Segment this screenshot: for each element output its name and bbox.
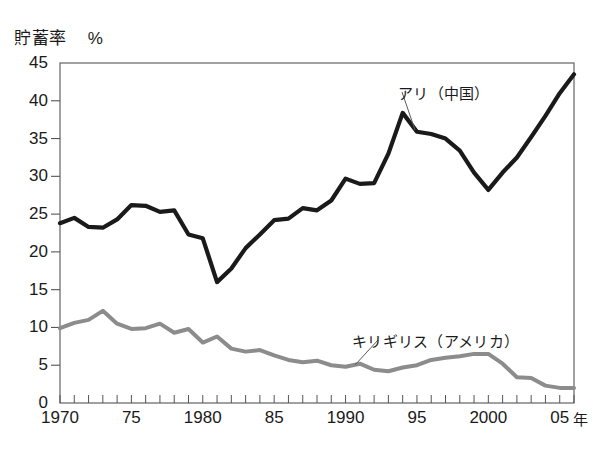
y-axis-unit: %	[88, 29, 104, 48]
y-axis-tick-label: 10	[14, 317, 48, 337]
x-axis-tick-label: 2000	[469, 408, 507, 428]
y-axis-tick-label: 20	[14, 242, 48, 262]
plot-frame	[60, 63, 574, 403]
x-axis-tick-label: 05	[550, 408, 569, 428]
x-axis-tick-label: 95	[407, 408, 426, 428]
savings-rate-chart: 貯蓄率 % 454035302520151050 197075198085199…	[0, 0, 604, 460]
y-axis-title-text: 貯蓄率	[14, 29, 67, 48]
y-axis-tick-label: 25	[14, 204, 48, 224]
x-axis-tick-label: 75	[122, 408, 141, 428]
y-axis-tick-label: 15	[14, 280, 48, 300]
x-axis-tick-label: 1970	[41, 408, 79, 428]
y-axis-tick-label: 40	[14, 91, 48, 111]
x-axis-unit-label: 年	[573, 408, 588, 429]
x-axis-tick-label: 1980	[184, 408, 222, 428]
y-axis-tick-label: 5	[14, 355, 48, 375]
x-axis-tick-label: 1990	[327, 408, 365, 428]
series-annotation-label-1: アリ（中国）	[398, 82, 490, 103]
series-annotation-label-2: キリギリス（アメリカ）	[352, 330, 519, 351]
y-axis-tick-label: 45	[14, 53, 48, 73]
x-axis-tick-label: 85	[265, 408, 284, 428]
y-axis-title: 貯蓄率 %	[14, 24, 103, 49]
plot-area	[0, 0, 604, 460]
y-axis-tick-label: 30	[14, 166, 48, 186]
y-axis-tick-label: 35	[14, 129, 48, 149]
